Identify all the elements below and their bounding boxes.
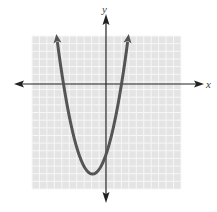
parabola-graph: x y [0,0,217,212]
y-axis-label: y [101,3,107,15]
x-axis-label: x [205,78,211,90]
